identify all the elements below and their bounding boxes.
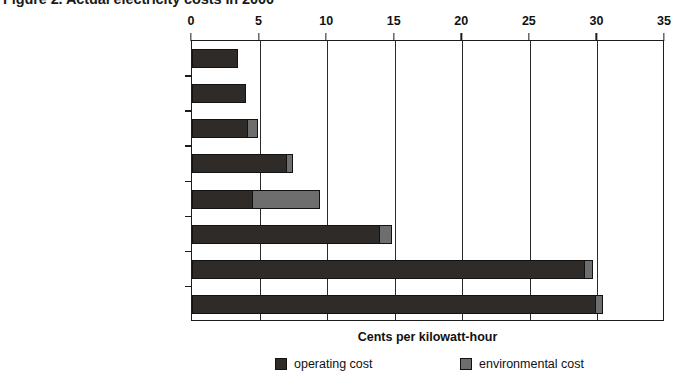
legend-swatch-icon — [275, 358, 287, 370]
bar-row — [192, 225, 392, 244]
bar-row — [192, 49, 238, 68]
chart-title: Figure 2. Actual electricity costs in 20… — [3, 0, 274, 7]
bar-segment-environmental — [286, 155, 293, 172]
y-axis-tick-mark — [185, 181, 192, 182]
y-axis-tick-mark — [185, 286, 192, 287]
bar-segment-operating — [193, 155, 286, 172]
x-axis-tick-label: 30 — [589, 14, 603, 28]
x-axis-tick-label: 5 — [255, 14, 262, 28]
x-axis-title: Cents per kilowatt-hour — [191, 330, 664, 344]
bar-row — [192, 84, 246, 103]
x-axis-tick-label: 0 — [188, 14, 195, 28]
x-axis-tick-label: 25 — [522, 14, 536, 28]
chart-legend: operating costenvironmental cost — [191, 357, 664, 371]
plot-area — [191, 40, 664, 321]
x-axis-tick-label: 15 — [387, 14, 401, 28]
x-axis-tick-label: 10 — [319, 14, 333, 28]
bar-row — [192, 260, 593, 279]
chart-figure: Figure 2. Actual electricity costs in 20… — [0, 0, 674, 382]
x-axis-tick-label: 35 — [657, 14, 671, 28]
bar-segment-operating — [193, 120, 247, 137]
legend-entry[interactable]: operating cost — [275, 357, 373, 371]
bar-row — [192, 295, 603, 314]
bar-segment-operating — [193, 85, 245, 102]
y-axis-tick-mark — [185, 216, 192, 217]
legend-label: operating cost — [294, 357, 373, 371]
bar-segment-operating — [193, 50, 237, 67]
bar-row — [192, 154, 293, 173]
bar-segment-operating — [193, 191, 252, 208]
bar-segment-operating — [193, 296, 595, 313]
legend-label: environmental cost — [479, 357, 584, 371]
bar-segment-operating — [193, 261, 584, 278]
bar-segment-environmental — [247, 120, 258, 137]
x-axis-tick-label: 20 — [454, 14, 468, 28]
bar-segment-operating — [193, 226, 379, 243]
legend-entry[interactable]: environmental cost — [460, 357, 584, 371]
gridline — [597, 41, 598, 320]
bar-row — [192, 119, 258, 138]
bar-segment-environmental — [584, 261, 592, 278]
bar-segment-environmental — [252, 191, 320, 208]
y-axis-tick-mark — [185, 251, 192, 252]
bar-segment-environmental — [379, 226, 391, 243]
y-axis-tick-mark — [185, 75, 192, 76]
y-axis-tick-mark — [185, 145, 192, 146]
y-axis-tick-mark — [185, 110, 192, 111]
bar-row — [192, 190, 320, 209]
legend-swatch-icon — [460, 358, 472, 370]
bar-segment-environmental — [595, 296, 602, 313]
